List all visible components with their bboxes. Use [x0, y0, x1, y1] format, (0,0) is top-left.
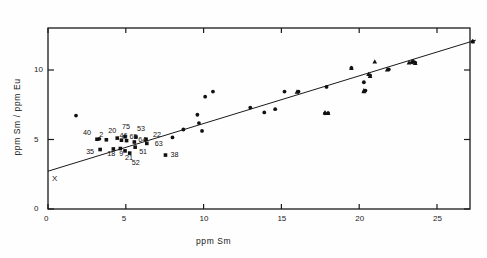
- svg-text:X: X: [52, 174, 58, 183]
- point-label: 65: [130, 132, 138, 141]
- figure-scatter-plot: X ppm Sm ppm Sm / ppm Eu 05101520250510 …: [0, 0, 487, 258]
- x-tick-label: 25: [433, 214, 442, 223]
- point-label: 52: [132, 158, 140, 167]
- origin-x-marker: X: [52, 174, 58, 183]
- point-label: 64: [138, 135, 146, 144]
- y-tick-label: 10: [34, 65, 43, 74]
- point-label: 38: [170, 150, 178, 159]
- point-label: 35: [86, 147, 94, 156]
- point-label: 9: [119, 149, 123, 158]
- axis-ticks: [48, 28, 470, 209]
- plot-frame: [48, 28, 470, 209]
- x-tick-label: 15: [277, 214, 286, 223]
- x-tick-label: 10: [200, 214, 209, 223]
- x-tick-label: 20: [355, 214, 364, 223]
- x-tick-label: 0: [44, 214, 48, 223]
- y-tick-label: 0: [34, 204, 38, 213]
- point-label: 40: [83, 128, 91, 137]
- point-label: 2: [99, 130, 103, 139]
- x-tick-label: 5: [122, 214, 126, 223]
- x-axis-title: ppm Sm: [196, 236, 231, 246]
- point-label: 63: [155, 139, 163, 148]
- y-tick-label: 5: [34, 135, 38, 144]
- y-axis-title: ppm Sm / ppm Eu: [12, 62, 22, 172]
- point-label: 75: [122, 122, 130, 131]
- point-label: 51: [139, 147, 147, 156]
- point-label: 20: [108, 126, 116, 135]
- plot-canvas: X: [0, 0, 487, 258]
- point-label: 22: [153, 130, 161, 139]
- point-label: 18: [107, 149, 115, 158]
- point-label: 53: [137, 124, 145, 133]
- point-label: 46: [119, 131, 127, 140]
